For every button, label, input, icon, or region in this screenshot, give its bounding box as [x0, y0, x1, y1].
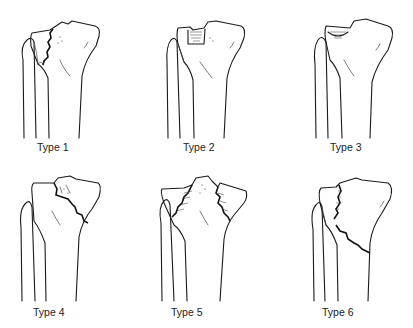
tibia-fracture-type-1-drawing — [0, 0, 137, 164]
label-type-3: Type 3 — [330, 141, 362, 153]
tibia-fracture-type-4-drawing — [0, 163, 137, 327]
tibia-fracture-type-2-drawing — [138, 0, 275, 164]
panel-type-1: Type 1 — [0, 0, 137, 164]
panel-type-5: Type 5 — [138, 163, 275, 327]
tibia-fracture-type-5-drawing — [138, 163, 275, 327]
tibia-fracture-type-6-drawing — [276, 163, 413, 327]
panel-type-6: Type 6 — [276, 163, 413, 327]
panel-type-3: Type 3 — [276, 0, 413, 164]
label-type-2: Type 2 — [183, 141, 215, 153]
label-type-1: Type 1 — [37, 141, 69, 153]
panel-type-4: Type 4 — [0, 163, 137, 327]
panel-type-2: Type 2 — [138, 0, 275, 164]
label-type-5: Type 5 — [171, 306, 203, 318]
label-type-6: Type 6 — [322, 306, 354, 318]
tibia-fracture-type-3-drawing — [276, 0, 413, 164]
label-type-4: Type 4 — [33, 306, 65, 318]
